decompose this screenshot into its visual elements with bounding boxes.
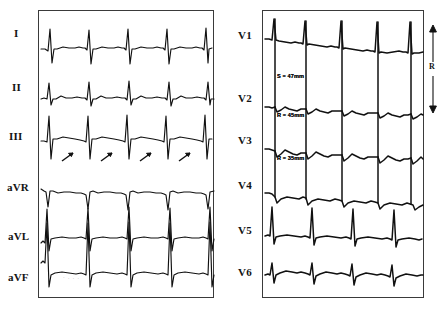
lead-iii-arrow-1 <box>62 153 73 161</box>
annotation-r-45mm: R = 45mm <box>277 112 304 118</box>
lead-iii-arrow-4 <box>179 153 190 161</box>
lead-label-ii: II <box>12 82 21 93</box>
lead-v1-s-wave-extensions <box>275 19 411 114</box>
lead-v1-trace <box>265 19 423 54</box>
lead-label-i: I <box>14 28 18 39</box>
lead-avl-trace <box>41 207 214 251</box>
lead-label-iii: III <box>9 131 22 142</box>
limb-lead-traces <box>39 11 215 299</box>
lead-label-v5: V5 <box>238 225 252 236</box>
annotation-s-47mm: S = 47mm <box>277 73 304 79</box>
lead-v4-trace <box>265 193 423 210</box>
lead-v5-trace <box>265 207 422 247</box>
lead-i-trace <box>41 28 212 64</box>
lead-label-avf: aVF <box>8 272 29 283</box>
paper-artifact: · . . . <box>63 274 80 280</box>
precordial-lead-panel: S = 47mm R = 45mm R = 35mm <box>262 10 424 298</box>
ecg-figure: · . . . I II III aVR aVL aVF <box>0 0 445 309</box>
lead-label-avl: aVL <box>8 231 29 242</box>
lead-v6-trace <box>265 263 423 286</box>
lead-label-v1: V1 <box>238 30 252 41</box>
lead-label-avr: aVR <box>7 182 29 193</box>
lead-ii-trace <box>41 81 214 106</box>
annotation-r-35mm: R = 35mm <box>277 155 304 161</box>
lead-iii-arrow-group <box>39 11 215 299</box>
lead-iii-arrow-2 <box>101 153 112 161</box>
lead-iii-arrow-3 <box>140 153 151 161</box>
lead-label-v4: V4 <box>238 180 252 191</box>
lead-iii-trace <box>41 115 212 159</box>
limb-lead-panel: · . . . <box>38 10 214 298</box>
lead-label-v2: V2 <box>238 93 252 104</box>
lead-avr-trace <box>41 189 214 210</box>
lead-label-v6: V6 <box>238 267 252 278</box>
r-scale-label: R <box>429 62 435 71</box>
lead-label-v3: V3 <box>238 135 252 146</box>
